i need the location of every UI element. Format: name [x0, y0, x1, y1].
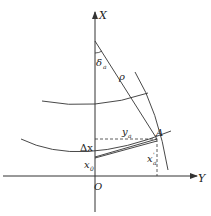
- angle-label: δ: [96, 57, 102, 68]
- point-a-label: A: [155, 127, 163, 138]
- y-axis-label: Y: [198, 172, 207, 185]
- angle-sub: a: [103, 63, 107, 70]
- x-axis-label: X: [98, 9, 108, 22]
- y-coord-sub: a: [128, 132, 132, 139]
- x-coord-sup: ': [153, 151, 155, 158]
- radius-label: ρ: [118, 71, 125, 82]
- diagram-canvas: X Y O δ a ρ A y a x a ' Δx x 0: [0, 0, 211, 216]
- x0-sub: 0: [90, 165, 94, 172]
- angle-arc: [95, 51, 102, 53]
- delta-x-label: Δx: [80, 142, 93, 153]
- y-coord-label: y: [121, 126, 128, 137]
- x-coord-sub: a: [153, 159, 157, 166]
- radius-line: [95, 41, 157, 139]
- origin-label: O: [94, 181, 102, 192]
